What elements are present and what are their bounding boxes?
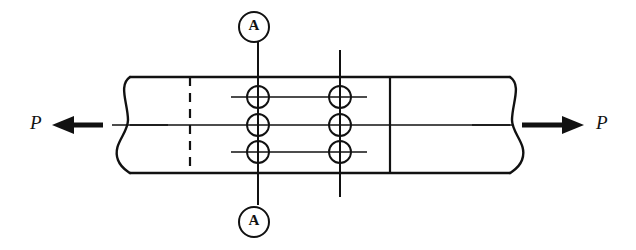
rivet-row-centerlines xyxy=(130,97,510,152)
load-arrow-right-head xyxy=(562,116,584,134)
figure-riveted-joint: P P A A xyxy=(0,0,636,250)
load-label-right: P xyxy=(596,112,608,134)
plate-right-break-line xyxy=(510,77,523,173)
load-arrow-left-head xyxy=(52,116,74,134)
load-label-left: P xyxy=(30,112,42,134)
diagram-canvas xyxy=(0,0,636,250)
section-line-a-a xyxy=(258,42,340,205)
section-label-top: A xyxy=(243,17,265,34)
section-label-bottom: A xyxy=(243,212,265,229)
